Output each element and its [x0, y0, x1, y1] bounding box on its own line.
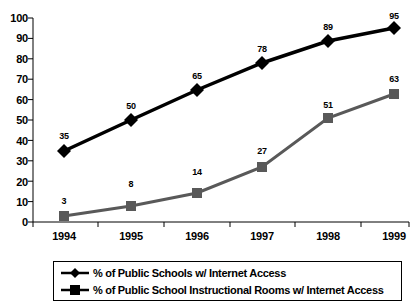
series-public-schools-line	[64, 28, 394, 151]
series-instructional-rooms-line	[64, 94, 394, 216]
x-axis-ticks	[33, 222, 409, 227]
square-marker	[126, 201, 136, 211]
diamond-marker	[387, 21, 401, 35]
legend-item-public-schools: % of Public Schools w/ Internet Access	[60, 264, 401, 281]
square-marker	[192, 188, 202, 198]
diamond-marker	[124, 113, 138, 127]
legend-label-public-schools: % of Public Schools w/ Internet Access	[93, 267, 286, 279]
diamond-marker	[321, 34, 335, 48]
diamond-marker	[190, 83, 204, 97]
series-public-schools	[57, 21, 401, 158]
chart-legend: % of Public Schools w/ Internet Access %…	[53, 261, 402, 301]
square-marker	[257, 162, 267, 172]
chart-container: 100 90 80 70 60 50 40 30 20 10 0 1994 19…	[0, 0, 412, 307]
diamond-marker	[57, 144, 71, 158]
square-marker	[389, 89, 399, 99]
legend-item-instructional-rooms: % of Public School Instructional Rooms w…	[60, 281, 401, 298]
series-instructional-rooms	[59, 89, 399, 221]
square-marker	[323, 113, 333, 123]
diamond-marker	[255, 56, 269, 70]
square-marker	[59, 211, 69, 221]
y-axis-ticks	[28, 18, 33, 222]
legend-label-instructional-rooms: % of Public School Instructional Rooms w…	[93, 284, 384, 296]
legend-key-square	[60, 283, 90, 297]
legend-key-diamond	[60, 266, 90, 280]
